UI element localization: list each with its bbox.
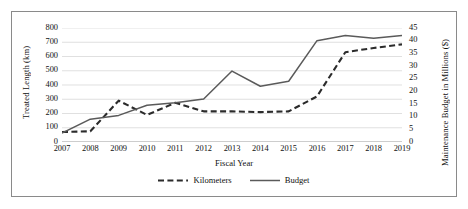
y-axis-left-tick-label: 700 bbox=[32, 37, 58, 46]
y-axis-left-tick-label: 400 bbox=[32, 80, 58, 89]
x-axis-tick-label: 2012 bbox=[195, 144, 212, 153]
x-axis-tick-label: 2014 bbox=[252, 144, 269, 153]
series-lines bbox=[62, 36, 402, 134]
y-axis-left-tick-label: 300 bbox=[32, 94, 58, 103]
x-axis-ticks: 2007200820092010201120122013201420152016… bbox=[62, 144, 402, 156]
x-axis-tick-label: 2016 bbox=[309, 144, 326, 153]
legend-swatch-dashed bbox=[158, 176, 188, 185]
y-axis-right-tick-label: 30 bbox=[409, 61, 429, 70]
chart-figure: Treated Length (km) Maintenance Budget i… bbox=[0, 0, 468, 209]
x-axis-tick-label: 2015 bbox=[280, 144, 297, 153]
y-axis-right-tick-label: 40 bbox=[409, 35, 429, 44]
y-axis-right-tick-label: 25 bbox=[409, 73, 429, 82]
x-axis-tick-label: 2008 bbox=[82, 144, 99, 153]
y-axis-right-tick-label: 45 bbox=[409, 23, 429, 32]
legend-item-budget[interactable]: Budget bbox=[250, 175, 310, 185]
y-axis-right-tick-label: 15 bbox=[409, 99, 429, 108]
series-line-kilometers bbox=[62, 44, 402, 132]
y-axis-left-tick-label: 100 bbox=[32, 122, 58, 131]
x-axis-tick-label: 2007 bbox=[54, 144, 71, 153]
y-axis-left-tick-label: 200 bbox=[32, 108, 58, 117]
y-axis-left-tick-label: 600 bbox=[32, 51, 58, 60]
legend-item-kilometers[interactable]: Kilometers bbox=[158, 175, 231, 185]
x-axis-tick-label: 2019 bbox=[394, 144, 411, 153]
y-axis-right-tick-label: 10 bbox=[409, 111, 429, 120]
y-axis-right-tick-label: 0 bbox=[409, 137, 429, 146]
plot-area bbox=[62, 28, 402, 142]
legend-swatch-solid bbox=[250, 176, 280, 185]
y-axis-right-tick-label: 20 bbox=[409, 86, 429, 95]
x-axis-tick-label: 2009 bbox=[110, 144, 127, 153]
chart-canvas bbox=[62, 28, 402, 142]
chart-legend: KilometersBudget bbox=[0, 172, 468, 188]
x-axis-tick-label: 2010 bbox=[139, 144, 156, 153]
x-axis-tick-label: 2013 bbox=[224, 144, 241, 153]
y-axis-right-tick-label: 5 bbox=[409, 124, 429, 133]
x-axis-tick-label: 2017 bbox=[337, 144, 354, 153]
legend-label: Budget bbox=[285, 175, 310, 185]
y-axis-left-tick-label: 500 bbox=[32, 65, 58, 74]
series-line-budget bbox=[62, 36, 402, 134]
y-axis-left-title: Treated Length (km) bbox=[21, 24, 31, 140]
x-axis-tick-label: 2011 bbox=[167, 144, 183, 153]
x-axis-title: Fiscal Year bbox=[0, 158, 468, 168]
legend-label: Kilometers bbox=[193, 175, 231, 185]
y-axis-left-tick-label: 800 bbox=[32, 23, 58, 32]
x-axis-tick-label: 2018 bbox=[365, 144, 382, 153]
gridlines bbox=[62, 28, 402, 142]
y-axis-right-tick-label: 35 bbox=[409, 48, 429, 57]
